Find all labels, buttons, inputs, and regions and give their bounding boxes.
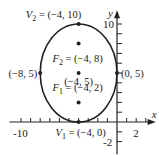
point-R (115, 71, 119, 75)
point-coords: = (−4, 8) (63, 53, 103, 65)
point-label-F1: F1 = (−4, 2) (51, 82, 103, 96)
point-L (38, 71, 42, 75)
point-label-L: (−8, 5) (9, 68, 38, 80)
point-V2 (77, 22, 81, 26)
point-label-V1: V1 = (−4, 0) (55, 127, 106, 141)
point-coords: = (−4, 2) (63, 82, 103, 94)
point-V1 (77, 120, 81, 124)
x-tick-label: 2 (133, 127, 139, 139)
point-label-R: (0, 5) (121, 68, 144, 80)
point-C (77, 71, 81, 75)
point-label-V2: V2 = (−4, 10) (26, 9, 82, 23)
y-tick-label: 10 (103, 18, 115, 30)
point-F2 (77, 42, 81, 46)
x-tick-label: -10 (13, 127, 28, 139)
x-axis-label: x (151, 108, 157, 120)
point-coords: = (−4, 10) (36, 9, 82, 21)
y-axis-arrow (114, 10, 120, 18)
point-F1 (77, 100, 81, 104)
point-coords: = (−4, 0) (66, 127, 106, 139)
point-label-F2: F2 = (−4, 8) (51, 53, 103, 67)
ellipse-diagram: xy-10210-2 V2 = (−4, 10)F2 = (−4, 8)(−4,… (0, 0, 159, 155)
